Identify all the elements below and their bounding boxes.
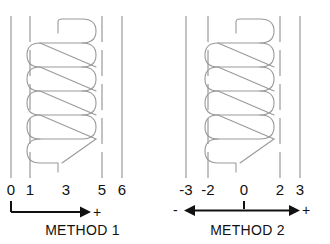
axis-plus-label: +: [93, 205, 101, 219]
arrowhead-right-icon: [289, 205, 300, 216]
scale-label-1: 1: [26, 180, 34, 200]
scale-label-minus-2: -2: [201, 180, 214, 200]
arrowhead-left-icon: [184, 205, 195, 216]
axis-plus-label: +: [302, 203, 310, 217]
scale-label-0: 0: [7, 180, 15, 200]
scale-label-minus-3: -3: [179, 180, 192, 200]
slot-lines-group-method-2: [186, 16, 300, 178]
panel-method-2: -3 -2 0 2 3 - + METHOD 2: [165, 0, 330, 244]
axis-minus-label: -: [173, 203, 178, 217]
scale-label-6: 6: [118, 180, 126, 200]
scale-label-0: 0: [240, 180, 248, 200]
scale-label-3: 3: [296, 180, 304, 200]
panel-method-1: 0 1 3 5 6 + METHOD 1: [0, 0, 165, 244]
scale-labels-method-2: -3 -2 0 2 3: [165, 180, 330, 200]
caption-method-1: METHOD 1: [0, 222, 165, 238]
direction-axis-method-1: [0, 198, 165, 220]
caption-method-2: METHOD 2: [165, 222, 330, 238]
coil-drawing-method-2: [165, 0, 330, 180]
scale-label-3: 3: [62, 180, 70, 200]
arrowhead-right-icon: [80, 207, 91, 218]
coil-winding-path-method-2: [205, 19, 274, 172]
coil-drawing-method-1: [0, 0, 165, 180]
scale-labels-method-1: 0 1 3 5 6: [0, 180, 165, 200]
winding-diagram-figure: 0 1 3 5 6 + METHOD 1: [0, 0, 330, 244]
coil-winding-path-method-1: [27, 19, 96, 172]
scale-label-5: 5: [98, 180, 106, 200]
scale-label-2: 2: [276, 180, 284, 200]
